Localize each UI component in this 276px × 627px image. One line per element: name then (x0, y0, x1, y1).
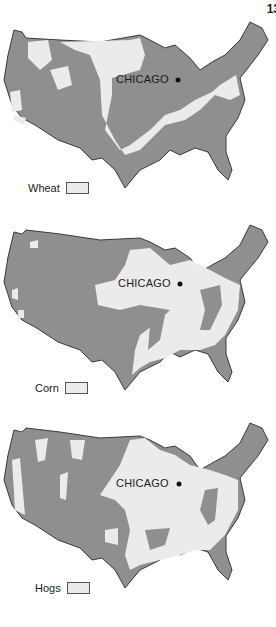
us-map-hogs (0, 420, 276, 625)
legend-swatch (67, 582, 90, 594)
city-label-chicago: CHICAGO (116, 73, 169, 85)
legend-swatch (65, 382, 88, 394)
legend-swatch (66, 182, 89, 194)
city-dot-icon (175, 77, 181, 83)
city-label-chicago: CHICAGO (116, 477, 169, 489)
city-label-chicago: CHICAGO (118, 277, 171, 289)
legend-hogs: Hogs (35, 582, 90, 594)
legend-label: Hogs (35, 582, 61, 594)
legend-wheat: Wheat (28, 182, 89, 194)
legend-corn: Corn (35, 382, 88, 394)
map-panel-corn: CHICAGO Corn (0, 210, 276, 415)
legend-label: Corn (35, 382, 59, 394)
legend-label: Wheat (28, 182, 60, 194)
us-map-wheat (0, 0, 276, 205)
map-panel-hogs: CHICAGO Hogs (0, 420, 276, 625)
city-dot-icon (177, 281, 183, 287)
map-panel-wheat: CHICAGO Wheat (0, 0, 276, 205)
city-dot-icon (176, 481, 182, 487)
